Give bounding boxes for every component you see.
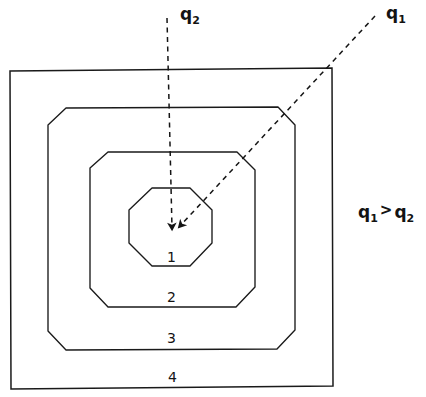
- inequality-annotation: q1>q2: [358, 204, 414, 224]
- q1-vector-label: q1: [386, 5, 406, 25]
- contour-label-1-text: 1: [167, 249, 176, 265]
- q2-vector-label: q2: [180, 6, 200, 26]
- q2-vector-arrow: [167, 18, 172, 228]
- contour-label-3-text: 3: [167, 330, 176, 346]
- contour-diagram-svg: [0, 0, 426, 397]
- contour-label-2-text: 2: [167, 289, 176, 305]
- contour-label-3: 3: [167, 331, 176, 345]
- contour-label-4: 4: [168, 370, 177, 384]
- inequality-left-symbol: q: [358, 202, 370, 222]
- diagram-canvas: 1 2 3 4 q2 q1 q1>q2: [0, 0, 426, 397]
- contour-shape-2: [90, 152, 255, 307]
- q2-symbol: q: [180, 4, 192, 24]
- q1-subscript: 1: [398, 13, 406, 26]
- inequality-right-subscript: 2: [407, 212, 415, 225]
- q1-symbol: q: [386, 3, 398, 23]
- contour-label-2: 2: [167, 290, 176, 304]
- inequality-operator: >: [378, 201, 395, 219]
- inequality-right-symbol: q: [394, 202, 406, 222]
- contour-label-1: 1: [167, 250, 176, 264]
- contour-label-4-text: 4: [168, 369, 177, 385]
- q2-subscript: 2: [192, 14, 200, 27]
- q1-vector-arrow: [180, 16, 375, 226]
- contour-shape-3: [48, 107, 295, 350]
- inequality-left-subscript: 1: [370, 212, 378, 225]
